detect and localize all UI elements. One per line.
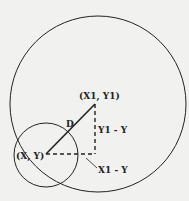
distance-line <box>46 104 95 154</box>
label-xy: (X, Y) <box>16 151 44 162</box>
label-x1y1: (X1, Y1) <box>79 91 120 102</box>
label-horizontal-leg: X1 - Y <box>98 165 128 175</box>
label-vertical-leg: Y1 - Y <box>97 125 128 135</box>
distance-diagram: (X1, Y1) D Y1 - Y (X, Y) X1 - Y <box>0 0 189 201</box>
label-d: D <box>66 119 74 129</box>
pointer-arrow <box>86 158 97 168</box>
